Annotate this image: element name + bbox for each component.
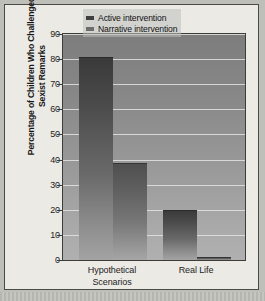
legend-swatch-icon-active xyxy=(86,16,94,20)
y-tick-mark-90 xyxy=(57,34,62,35)
x-cat-0-line2: Scenarios xyxy=(92,277,131,287)
y-tick-mark-80 xyxy=(57,59,62,60)
chart-paper: Percentage of Children Who Challenged Se… xyxy=(4,4,259,290)
y-tick-mark-0 xyxy=(57,260,62,261)
page-edge-texture xyxy=(0,292,265,301)
y-tick-mark-30 xyxy=(57,185,62,186)
x-cat-0-line1: Hypothetical xyxy=(88,265,136,275)
y-tick-mark-70 xyxy=(57,84,62,85)
x-axis-category-real-life: Real Life xyxy=(151,265,241,277)
chart-legend: Active intervention Narrative interventi… xyxy=(83,9,181,37)
y-axis-title-line1: Percentage of Children Who Challenged xyxy=(26,0,36,155)
y-tick-mark-20 xyxy=(57,210,62,211)
legend-label-narrative: Narrative intervention xyxy=(98,24,177,34)
bar-hypothetical-scenarios-narrative-intervention xyxy=(113,163,147,260)
legend-label-active: Active intervention xyxy=(98,13,166,23)
bar-hypothetical-scenarios-active-intervention xyxy=(79,57,113,260)
x-cat-1-line1: Real Life xyxy=(179,265,214,275)
y-tick-mark-50 xyxy=(57,134,62,135)
legend-swatch-icon-narrative xyxy=(86,27,94,31)
plot-area xyxy=(63,34,245,260)
y-tick-mark-60 xyxy=(57,109,62,110)
legend-item-active-intervention: Active intervention xyxy=(86,12,177,23)
bar-real-life-active-intervention xyxy=(163,210,197,260)
bar-real-life-narrative-intervention xyxy=(197,257,231,260)
legend-item-narrative-intervention: Narrative intervention xyxy=(86,23,177,34)
y-axis-ticks: 0102030405060708090 xyxy=(38,33,60,261)
y-tick-mark-10 xyxy=(57,235,62,236)
y-tick-mark-40 xyxy=(57,160,62,161)
figure-root: Percentage of Children Who Challenged Se… xyxy=(0,0,265,301)
plot-frame xyxy=(62,33,246,261)
x-axis-category-hypothetical-scenarios: Hypothetical Scenarios xyxy=(67,265,157,288)
